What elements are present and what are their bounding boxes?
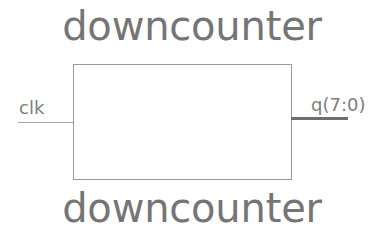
q-output-bus-wire[interactable] [291, 117, 348, 120]
entity-name-top-label: downcounter [0, 6, 384, 46]
entity-name-bottom-label: downcounter [0, 188, 384, 228]
component-body-rectangle[interactable] [73, 64, 292, 180]
schematic-canvas: downcounter clk q(7:0) downcounter [0, 0, 384, 236]
clk-port-label: clk [19, 99, 44, 117]
clk-input-wire[interactable] [18, 122, 74, 123]
q-port-label: q(7:0) [311, 96, 365, 114]
